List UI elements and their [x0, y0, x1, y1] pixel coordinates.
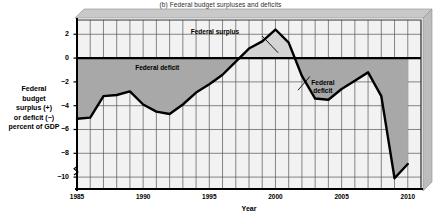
annotation-federal-deficit-left: Federal deficit	[135, 64, 179, 72]
x-tick-2000: 2000	[255, 193, 295, 201]
y-tick-2: 2	[43, 30, 69, 38]
chart-figure: (b) Federal budget surpluses and deficit…	[0, 0, 441, 218]
x-tick-1995: 1995	[189, 193, 229, 201]
y-tick-neg10: −10	[43, 173, 69, 181]
y-tick-neg2: −2	[43, 78, 69, 86]
annotation-deficit-line-1: Federal	[311, 79, 334, 86]
annotation-federal-deficit-right: Federal deficit	[306, 79, 340, 95]
y-tick-0: 0	[43, 54, 69, 62]
y-tick-neg8: −8	[43, 149, 69, 157]
x-tick-2005: 2005	[322, 193, 362, 201]
annotation-deficit-line-2: deficit	[313, 87, 332, 94]
y-tick-neg6: −6	[43, 125, 69, 133]
x-tick-2010: 2010	[388, 193, 428, 201]
annotation-federal-surplus: Federal surplus	[191, 28, 239, 36]
x-tick-1990: 1990	[123, 193, 163, 201]
y-tick-neg4: −4	[43, 102, 69, 110]
x-tick-1985: 1985	[57, 193, 97, 201]
